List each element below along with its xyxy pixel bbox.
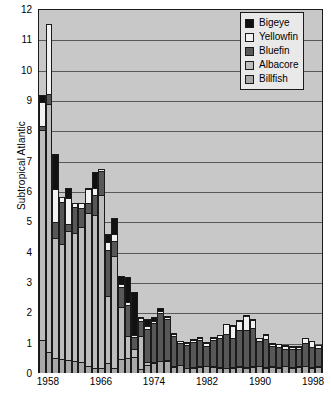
legend-item-bluefin: Bluefin xyxy=(245,44,298,58)
bar-segment-yellowfin xyxy=(46,24,53,95)
bar-segment-albacore xyxy=(52,238,59,359)
bar-segment-billfish xyxy=(302,366,309,373)
legend-swatch-icon xyxy=(245,61,254,70)
bar-1958 xyxy=(46,10,53,372)
bar-segment-yellowfin xyxy=(65,198,72,225)
bar-segment-bluefin xyxy=(276,347,283,368)
bar-segment-billfish xyxy=(125,358,132,373)
bar-1999 xyxy=(315,10,322,372)
bar-segment-bluefin xyxy=(243,330,250,368)
bar-segment-bluefin xyxy=(78,208,85,228)
bar-segment-billfish xyxy=(118,359,125,373)
bar-segment-albacore xyxy=(111,256,118,368)
bar-segment-billfish xyxy=(210,367,217,373)
bar-segment-bluefin xyxy=(177,343,184,366)
bar-segment-billfish xyxy=(131,357,138,373)
legend-label: Yellowfin xyxy=(259,32,298,42)
bar-segment-bluefin xyxy=(105,250,112,297)
bar-segment-bluefin xyxy=(151,323,158,362)
bar-segment-bluefin xyxy=(230,338,237,368)
bar-segment-albacore xyxy=(46,104,53,353)
bar-segment-billfish xyxy=(230,368,237,373)
bar-segment-bigeye xyxy=(111,218,118,235)
bar-segment-bluefin xyxy=(256,341,263,367)
bar-1976 xyxy=(164,10,171,372)
legend-label: Albacore xyxy=(259,60,298,70)
bar-1975 xyxy=(157,10,164,372)
x-tick-label: 1998 xyxy=(302,376,324,387)
bar-segment-bluefin xyxy=(296,349,303,367)
bar-1978 xyxy=(177,10,184,372)
bar-segment-billfish xyxy=(78,362,85,373)
bar-segment-bluefin xyxy=(138,321,145,336)
bar-1998 xyxy=(309,10,316,372)
bar-segment-bluefin xyxy=(236,330,243,368)
y-tick-label: 12 xyxy=(21,4,32,15)
bar-segment-billfish xyxy=(171,367,178,373)
bar-segment-bluefin xyxy=(144,329,151,364)
bar-segment-billfish xyxy=(151,363,158,373)
y-tick-label: 9 xyxy=(26,95,32,106)
y-tick-label: 1 xyxy=(26,337,32,348)
bar-segment-albacore xyxy=(59,244,66,361)
bar-segment-billfish xyxy=(184,368,191,373)
bar-1981 xyxy=(197,10,204,372)
bar-1968 xyxy=(111,10,118,372)
bar-segment-bluefin xyxy=(111,241,118,258)
bar-1983 xyxy=(210,10,217,372)
x-tick-label: 1974 xyxy=(143,376,165,387)
y-tick-label: 8 xyxy=(26,125,32,136)
bar-segment-albacore xyxy=(65,231,72,361)
bar-segment-yellowfin xyxy=(85,189,92,204)
bar-segment-albacore xyxy=(85,213,92,368)
bar-segment-bluefin xyxy=(309,347,316,368)
bar-1986 xyxy=(230,10,237,372)
bar-segment-billfish xyxy=(111,368,118,373)
bar-segment-bigeye xyxy=(92,172,99,189)
legend-swatch-icon xyxy=(245,47,254,56)
bar-1973 xyxy=(144,10,151,372)
bar-segment-billfish xyxy=(177,365,184,373)
bar-segment-billfish xyxy=(256,366,263,373)
bar-segment-bluefin xyxy=(263,339,270,368)
legend-swatch-icon xyxy=(245,33,254,42)
bar-segment-bluefin xyxy=(98,171,105,195)
legend-item-bigeye: Bigeye xyxy=(245,16,298,30)
bar-segment-albacore xyxy=(125,336,132,359)
legend-swatch-icon xyxy=(245,75,254,84)
bar-segment-billfish xyxy=(65,360,72,373)
y-tick-label: 5 xyxy=(26,216,32,227)
bar-1959 xyxy=(52,10,59,372)
bar-1971 xyxy=(131,10,138,372)
bar-1965 xyxy=(92,10,99,372)
y-tick-label: 10 xyxy=(21,64,32,75)
bar-segment-billfish xyxy=(46,352,53,373)
bar-1957 xyxy=(39,10,46,372)
bar-segment-billfish xyxy=(105,363,112,373)
bar-1969 xyxy=(118,10,125,372)
bar-segment-bluefin xyxy=(190,342,197,368)
bar-segment-albacore xyxy=(92,215,99,370)
bar-segment-bluefin xyxy=(125,305,132,337)
legend-label: Billfish xyxy=(259,74,288,84)
bar-segment-billfish xyxy=(98,368,105,373)
y-tick-label: 4 xyxy=(26,246,32,257)
bar-segment-billfish xyxy=(138,369,145,373)
bar-segment-bluefin xyxy=(282,349,289,367)
bar-segment-billfish xyxy=(203,366,210,373)
legend-item-albacore: Albacore xyxy=(245,58,298,72)
bar-segment-albacore xyxy=(72,233,79,362)
bar-segment-albacore xyxy=(105,296,112,364)
bar-segment-albacore xyxy=(78,227,85,364)
bar-segment-billfish xyxy=(315,367,322,373)
legend-item-yellowfin: Yellowfin xyxy=(245,30,298,44)
bar-segment-billfish xyxy=(296,367,303,373)
bar-segment-bluefin xyxy=(171,336,178,368)
bar-segment-bigeye xyxy=(125,277,132,303)
bar-1960 xyxy=(59,10,66,372)
legend-item-billfish: Billfish xyxy=(245,72,298,86)
bar-segment-bluefin xyxy=(250,328,257,367)
bar-segment-albacore xyxy=(39,130,46,341)
bar-segment-billfish xyxy=(92,368,99,373)
bar-1974 xyxy=(151,10,158,372)
